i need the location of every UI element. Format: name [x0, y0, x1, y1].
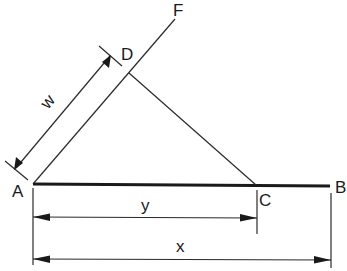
segment-ab — [33, 184, 330, 186]
x-arrow-end-icon — [314, 256, 331, 264]
y-arrow-end-icon — [240, 214, 257, 222]
x-arrow-start-icon — [33, 256, 50, 264]
y-dimension-line — [33, 217, 257, 218]
y-arrow-start-icon — [33, 214, 50, 222]
segment-dc — [129, 73, 256, 185]
w-dimension-line — [16, 56, 110, 168]
label-b: B — [335, 178, 346, 197]
label-w: w — [36, 90, 60, 113]
label-f: F — [173, 1, 183, 20]
label-d: D — [121, 45, 133, 64]
label-a: A — [12, 182, 24, 201]
w-arrow-start-icon — [14, 157, 23, 170]
label-y: y — [141, 196, 150, 215]
x-dimension-line — [33, 259, 331, 260]
w-arrow-end-icon — [102, 55, 111, 68]
label-x: x — [176, 237, 185, 256]
geometry-diagram: A B C D F w y x — [0, 0, 347, 271]
label-c: C — [259, 191, 271, 210]
